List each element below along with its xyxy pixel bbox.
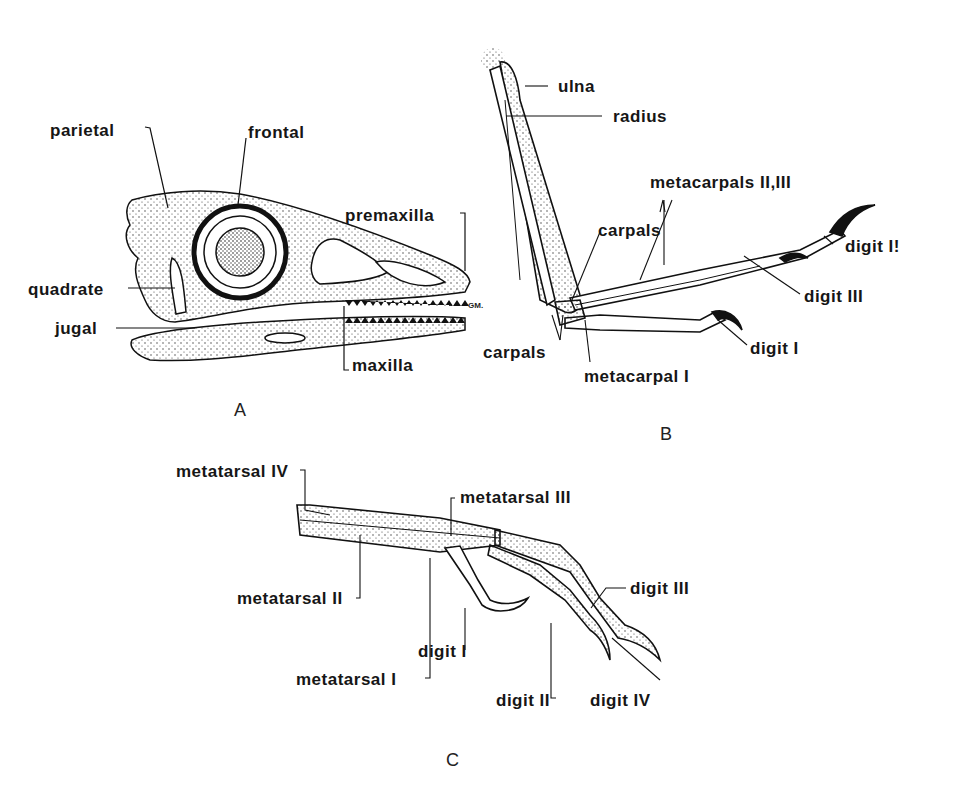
label-premaxilla: premaxilla xyxy=(345,207,434,224)
label-parietal: parietal xyxy=(50,122,114,139)
label-metatarsal-iv: metatarsal IV xyxy=(176,463,288,480)
panel-letter-c: C xyxy=(446,750,459,771)
label-digit-i: digit I xyxy=(750,340,799,357)
label-jugal: jugal xyxy=(55,320,97,337)
label-digit-iii: digit III xyxy=(804,288,863,305)
label-radius: radius xyxy=(613,108,667,125)
label-carpals-lower: carpals xyxy=(483,344,546,361)
panel-letter-a: A xyxy=(234,400,246,421)
label-digit-iii-foot: digit III xyxy=(630,580,689,597)
label-digit-ii-foot: digit II xyxy=(496,692,550,709)
label-metatarsal-ii: metatarsal II xyxy=(237,590,343,607)
label-maxilla: maxilla xyxy=(352,357,413,374)
label-digit-iv-foot: digit IV xyxy=(590,692,651,709)
label-metacarpals-ii-iii: metacarpals II,III xyxy=(650,174,791,191)
label-metacarpal-i: metacarpal I xyxy=(584,368,689,385)
anatomy-illustration xyxy=(0,0,959,795)
label-frontal: frontal xyxy=(248,124,304,141)
label-digit-ii: digit I! xyxy=(845,238,900,255)
label-ulna: ulna xyxy=(558,78,595,95)
label-metatarsal-iii: metatarsal III xyxy=(460,489,571,506)
label-digit-i-foot: digit I xyxy=(418,643,467,660)
foot-drawing xyxy=(297,505,660,660)
label-metatarsal-i: metatarsal I xyxy=(296,671,397,688)
artist-signature: GM. xyxy=(468,301,483,310)
label-carpals-upper: carpals xyxy=(598,222,661,239)
panel-letter-b: B xyxy=(660,424,672,445)
label-quadrate: quadrate xyxy=(28,281,104,298)
